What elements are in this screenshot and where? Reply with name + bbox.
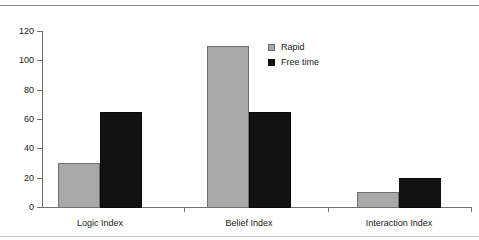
- y-tick-60: [37, 119, 42, 120]
- y-tick-80: [37, 90, 42, 91]
- x-tick-label-belief-index: Belief Index: [199, 218, 299, 228]
- y-tick-40: [37, 148, 42, 149]
- y-tick-label-120: 120: [19, 27, 34, 36]
- y-tick-label-0: 0: [29, 203, 34, 212]
- bar-chart: 120 100 80 60 40 20 0 Logic Index Belief…: [0, 0, 479, 240]
- bar-interaction-index-rapid: [357, 192, 399, 208]
- y-tick-label-20: 20: [24, 174, 34, 183]
- bar-logic-index-free-time: [100, 112, 142, 208]
- x-tick-label-interaction-index: Interaction Index: [349, 218, 449, 228]
- legend-item-rapid: Rapid: [268, 40, 319, 54]
- legend-label-free-time: Free time: [281, 58, 319, 67]
- bar-belief-index-free-time: [249, 112, 291, 208]
- y-tick-0: [37, 207, 42, 208]
- y-tick-label-40: 40: [24, 144, 34, 153]
- y-tick-label-80: 80: [24, 86, 34, 95]
- bar-interaction-index-free-time: [399, 178, 441, 208]
- legend-label-rapid: Rapid: [281, 43, 305, 52]
- x-tick-label-logic-index: Logic Index: [50, 218, 150, 228]
- bar-logic-index-rapid: [58, 163, 100, 208]
- y-axis-line: [42, 31, 43, 208]
- legend-swatch-rapid-icon: [268, 44, 275, 51]
- chart-legend: Rapid Free time: [268, 40, 319, 70]
- x-tick-separator-1: [184, 207, 185, 212]
- x-tick-separator-3: [471, 207, 472, 212]
- y-tick-label-100: 100: [19, 56, 34, 65]
- y-tick-120: [37, 31, 42, 32]
- x-tick-separator-2: [328, 207, 329, 212]
- legend-item-free-time: Free time: [268, 55, 319, 69]
- y-tick-label-60: 60: [24, 115, 34, 124]
- bar-belief-index-rapid: [207, 46, 249, 208]
- y-tick-100: [37, 60, 42, 61]
- y-tick-20: [37, 178, 42, 179]
- legend-swatch-free-time-icon: [268, 59, 275, 66]
- plot-area: 120 100 80 60 40 20 0 Logic Index Belief…: [0, 0, 479, 240]
